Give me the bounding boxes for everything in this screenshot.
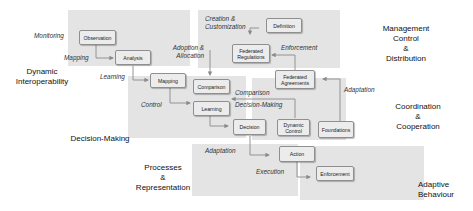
label-adoption-allocation: Adoption & Allocation — [171, 44, 204, 60]
node-observation[interactable]: Observation — [79, 30, 116, 45]
node-action[interactable]: Action — [279, 146, 315, 162]
node-learning[interactable]: Learning — [193, 101, 230, 116]
label-enforcement: Enforcement — [281, 44, 317, 52]
node-decision[interactable]: Decision — [233, 119, 266, 135]
node-federated-regulations[interactable]: Federated Regulations — [232, 44, 270, 63]
node-enforcement[interactable]: Enforcement — [316, 166, 354, 181]
node-foundations[interactable]: Foundations — [318, 121, 354, 138]
label-creation-customization: Creation &Customization — [205, 15, 246, 31]
node-definition[interactable]: Definition — [266, 18, 302, 33]
node-dynamic-control[interactable]: Dynamic Control — [277, 119, 310, 136]
node-comparison[interactable]: Comparison — [193, 79, 230, 94]
node-mapping[interactable]: Mapping — [150, 73, 186, 88]
label-monitoring: Monitoring — [34, 32, 64, 40]
label-comparison: Comparison — [235, 89, 269, 97]
region-processes: Processes&Representation — [130, 163, 196, 193]
label-decision-making-edge: Decision-Making — [235, 101, 282, 109]
label-execution: Execution — [256, 168, 284, 176]
label-control: Control — [141, 101, 162, 109]
region-dynamic-interoperability: DynamicInteroperability — [2, 67, 82, 87]
node-federated-agreements[interactable]: Federated Agreements — [275, 70, 315, 89]
region-management: ManagementControl&Distribution — [356, 24, 456, 64]
label-adaptation-coordination: Adaptation — [344, 86, 375, 94]
node-analysis[interactable]: Analysis — [115, 50, 151, 65]
region-adaptive-behaviour: AdaptiveBehaviour — [418, 180, 473, 200]
label-mapping: Mapping — [64, 54, 89, 62]
label-adaptation-processes: Adaptation — [205, 147, 236, 155]
label-learning: Learning — [100, 73, 125, 81]
region-coordination: Coordination&Cooperation — [368, 102, 468, 132]
region-decision-making: Decision-Making — [60, 134, 140, 144]
